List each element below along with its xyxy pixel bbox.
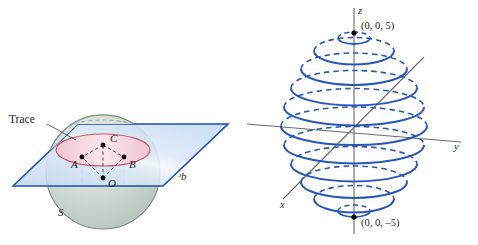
north-pole-dot — [351, 30, 356, 35]
point-C-dot — [101, 143, 106, 148]
axis-y-label: y — [453, 141, 459, 152]
point-A-dot — [80, 155, 85, 160]
point-B-dot — [122, 155, 127, 160]
panel-sphere-horizontal-traces: (0, 0, 5) (0, 0, –5) z y x — [239, 0, 478, 245]
sphere-label: S — [58, 206, 64, 218]
trace-label: Trace — [9, 113, 35, 125]
south-pole-dot — [351, 214, 356, 219]
right-figure-svg: (0, 0, 5) (0, 0, –5) z y x — [239, 0, 478, 245]
panel-sphere-plane-intersection: C A B O Trace S ᵊb — [0, 0, 239, 245]
plane-label: ᵊb — [178, 170, 187, 182]
point-A-label: A — [70, 158, 78, 170]
north-pole-label: (0, 0, 5) — [361, 20, 395, 32]
point-B-label: B — [129, 158, 136, 170]
left-figure-svg: C A B O Trace S ᵊb — [0, 0, 239, 245]
figure-root: C A B O Trace S ᵊb — [0, 0, 478, 245]
point-C-label: C — [110, 132, 118, 144]
south-pole-label: (0, 0, –5) — [361, 217, 400, 229]
point-O-dot — [101, 176, 106, 181]
axis-z-label: z — [357, 5, 362, 16]
point-O-label: O — [108, 177, 116, 189]
axis-x-label: x — [279, 199, 285, 210]
